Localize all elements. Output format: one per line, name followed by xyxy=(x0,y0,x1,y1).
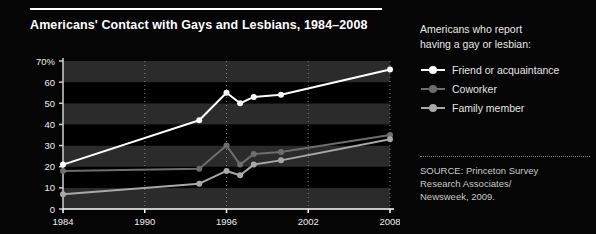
info-panel: Americans who report having a gay or les… xyxy=(420,0,596,234)
legend-heading-line-2: having a gay or lesbian: xyxy=(420,37,592,52)
circle-marker-icon xyxy=(420,102,446,114)
data-point xyxy=(278,157,284,163)
data-point xyxy=(237,172,243,178)
data-point xyxy=(60,162,66,168)
data-point xyxy=(196,117,202,123)
source-divider xyxy=(420,156,590,157)
circle-marker-icon xyxy=(420,64,446,76)
plot-area: 010203040506070%19841990199620022008 xyxy=(0,0,400,234)
data-point xyxy=(251,94,257,100)
data-point xyxy=(60,191,66,197)
data-point xyxy=(60,168,66,174)
legend-item-friend-or-acquaintance: Friend or acquaintance xyxy=(420,60,596,79)
legend-heading: Americans who report having a gay or les… xyxy=(420,22,592,52)
data-point xyxy=(387,136,393,142)
data-point xyxy=(278,149,284,155)
chart-panel: Americans' Contact with Gays and Lesbian… xyxy=(0,0,400,234)
x-axis-tick-label: 1984 xyxy=(52,216,73,227)
source-note: SOURCE: Princeton Survey Research Associ… xyxy=(420,164,592,203)
y-axis-tick-label: 60 xyxy=(44,77,55,88)
x-axis-tick-label: 2002 xyxy=(298,216,319,227)
x-axis-tick-label: 2008 xyxy=(379,216,400,227)
source-line-1: SOURCE: Princeton Survey xyxy=(420,164,592,177)
data-point xyxy=(278,92,284,98)
data-point xyxy=(387,66,393,72)
data-point xyxy=(237,162,243,168)
data-point xyxy=(224,143,230,149)
source-line-2: Research Associates/ xyxy=(420,177,592,190)
circle-marker-icon xyxy=(420,83,446,95)
legend-item-coworker: Coworker xyxy=(420,79,596,98)
x-axis-tick-label: 1996 xyxy=(216,216,237,227)
y-axis-tick-label: 0 xyxy=(50,204,55,215)
plot-band xyxy=(63,61,390,82)
data-point xyxy=(237,100,243,106)
y-axis-tick-label: 70% xyxy=(36,56,56,67)
legend-item-family-member: Family member xyxy=(420,98,596,117)
data-point xyxy=(251,162,257,168)
chart-page: Americans' Contact with Gays and Lesbian… xyxy=(0,0,596,234)
data-point xyxy=(251,151,257,157)
source-line-3: Newsweek, 2009. xyxy=(420,190,592,203)
data-point xyxy=(196,181,202,187)
data-point xyxy=(224,90,230,96)
y-axis-tick-label: 40 xyxy=(44,119,55,130)
data-point xyxy=(196,166,202,172)
line-chart-svg: 010203040506070%19841990199620022008 xyxy=(0,0,400,234)
y-axis-tick-label: 10 xyxy=(44,182,55,193)
legend-item-label: Friend or acquaintance xyxy=(452,64,559,76)
x-axis-tick-label: 1990 xyxy=(134,216,155,227)
y-axis-tick-label: 30 xyxy=(44,140,55,151)
y-axis-tick-label: 50 xyxy=(44,98,55,109)
legend-item-label: Family member xyxy=(452,102,524,114)
legend-heading-line-1: Americans who report xyxy=(420,22,592,37)
data-point xyxy=(224,168,230,174)
y-axis-tick-label: 20 xyxy=(44,161,55,172)
chart-legend: Friend or acquaintance Coworker Family m… xyxy=(420,60,596,117)
legend-item-label: Coworker xyxy=(452,83,497,95)
